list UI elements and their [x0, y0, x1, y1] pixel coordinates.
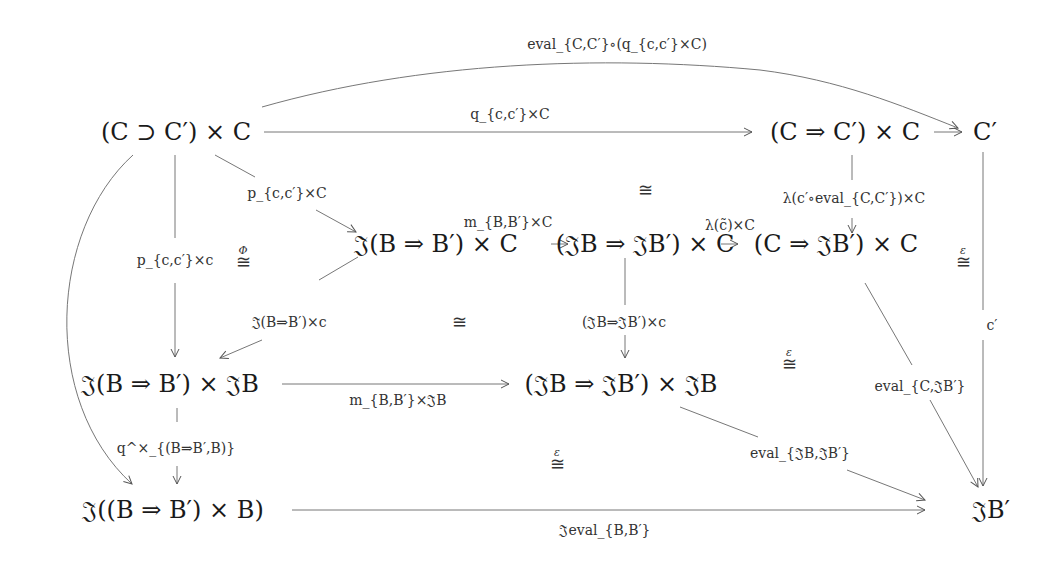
label-n1-n4: p_{c,c′}×C [247, 186, 327, 200]
arrow-n6-n10-b [930, 400, 978, 487]
arrow-n8-n10-b [847, 470, 925, 500]
node-n5: (𝔍B ⇒ 𝔍B′) × C [556, 232, 735, 256]
node-n10: 𝔍B′ [972, 498, 1010, 522]
label-n2-n6: λ(c′∘eval_{C,C′})×C [783, 191, 926, 205]
label-n8-n10: eval_{𝔍B,𝔍B′} [750, 446, 850, 460]
node-n4: 𝔍(B ⇒ B′) × C [354, 232, 518, 256]
label-n7-n9: q^×_{(B⇒B′,B)} [117, 441, 235, 455]
label-n6-n10: eval_{C,𝔍B′} [875, 379, 966, 393]
arrow-n1-n4-b [316, 210, 356, 232]
arrow-layer [0, 0, 1060, 561]
arrow-n4-n7-a [319, 257, 358, 280]
iso-right-symbol: ≅ [956, 251, 971, 272]
label-n7-n8: m_{B,B′}×𝔍B [349, 393, 446, 407]
node-n6: (C ⇒ 𝔍B′) × C [754, 232, 918, 256]
arrow-n6-n10-a [865, 283, 912, 365]
label-n9-n10: 𝔍eval_{B,B′} [559, 523, 650, 537]
iso-bottom-symbol: ≅ [550, 453, 565, 474]
label-n1-n7: p_{c,c′}×c [137, 253, 214, 267]
iso-right: ε ≅ [956, 245, 971, 271]
label-n4-n5: m_{B,B′}×C [464, 215, 553, 229]
iso-center-right-symbol: ≅ [782, 353, 797, 374]
label-n1-n2: q_{c,c′}×C [470, 107, 550, 121]
label-top-curve: eval_{C,C′}∘(q_{c,c′}×C) [527, 37, 707, 51]
label-n5-n8: (𝔍B⇒𝔍B′)×c [582, 315, 666, 329]
arrow-n8-n10-a [680, 407, 758, 437]
iso-top-symbol: ≅ [638, 179, 653, 200]
iso-phi-symbol: ≅ [236, 251, 251, 272]
node-n9: 𝔍((B ⇒ B′) × B) [82, 498, 264, 522]
node-n8: (𝔍B ⇒ 𝔍B′) × 𝔍B [525, 372, 718, 396]
node-n7: 𝔍(B ⇒ B′) × 𝔍B [81, 372, 259, 396]
label-n3-n10: c′ [986, 318, 997, 332]
arrow-n4-n7-b [220, 340, 262, 358]
commutative-diagram: (C ⊃ C′) × C (C ⇒ C′) × C C′ 𝔍(B ⇒ B′) ×… [0, 0, 1060, 561]
node-n2: (C ⇒ C′) × C [770, 120, 920, 144]
iso-mid: ≅ [452, 313, 467, 331]
iso-bottom: ε ≅ [550, 447, 565, 473]
node-n1: (C ⊃ C′) × C [101, 120, 251, 144]
node-n3: C′ [973, 120, 997, 144]
label-n4-n7: 𝔍(B⇒B′)×c [252, 315, 327, 329]
label-n5-n6: λ(c̃)×C [705, 218, 755, 232]
arrow-n1-n4-a [215, 155, 255, 177]
iso-center-right: ε ≅ [782, 347, 797, 373]
iso-mid-symbol: ≅ [452, 311, 467, 332]
arrow-left-curve [67, 155, 133, 484]
iso-phi: Φ ≅ [236, 245, 251, 271]
iso-top: ≅ [638, 181, 653, 199]
